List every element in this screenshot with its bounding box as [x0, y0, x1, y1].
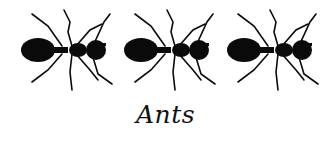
ant-icon — [224, 8, 320, 92]
ant-icon — [18, 8, 114, 92]
caption-text: Ants — [0, 100, 331, 129]
ant-icon — [121, 8, 217, 92]
